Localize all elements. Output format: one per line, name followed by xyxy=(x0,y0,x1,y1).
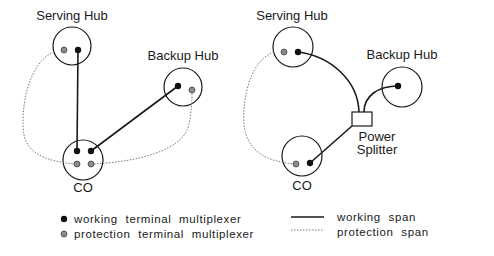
power-splitter-box xyxy=(352,112,372,126)
right-co-protection-tm xyxy=(293,161,299,167)
right-working-span-backup xyxy=(364,86,398,112)
left-backup-protection-tm xyxy=(189,87,195,93)
left-co-protection-tm-2 xyxy=(88,161,94,167)
right-co-working-tm xyxy=(307,160,313,166)
right-working-span-co xyxy=(310,126,352,163)
left-backup-working-tm xyxy=(175,83,181,89)
right-backup-working-tm xyxy=(395,83,401,89)
right-co-label: CO xyxy=(292,178,312,193)
right-serving-hub-label: Serving Hub xyxy=(256,8,328,23)
right-serving-working-tm xyxy=(295,49,301,55)
diagram-canvas: Serving Hub Backup Hub CO Serving Hub Ba… xyxy=(0,0,494,256)
left-serving-hub xyxy=(53,27,91,65)
legend-protection-tm-icon xyxy=(61,231,67,237)
left-co-protection-tm-1 xyxy=(74,161,80,167)
right-protection-span xyxy=(244,52,296,164)
left-working-span-serving xyxy=(77,50,78,151)
left-serving-hub-label: Serving Hub xyxy=(36,8,108,23)
right-diagram: Serving Hub Backup Hub Power Splitter CO xyxy=(244,8,438,193)
power-splitter-label-2: Splitter xyxy=(357,142,398,157)
left-serving-working-tm xyxy=(75,47,81,53)
legend-protection-tm-label: protection terminal multiplexer xyxy=(74,228,254,240)
left-diagram: Serving Hub Backup Hub CO xyxy=(23,8,218,195)
left-co-working-tm-1 xyxy=(74,148,80,154)
left-co-label: CO xyxy=(73,180,93,195)
right-backup-hub-label: Backup Hub xyxy=(367,47,438,62)
legend-working-tm-label: working terminal multiplexer xyxy=(73,213,241,225)
legend-working-span-label: working span xyxy=(336,211,416,223)
legend-working-tm-icon xyxy=(61,216,67,222)
legend-protection-span-label: protection span xyxy=(337,226,429,238)
left-working-span-backup xyxy=(91,86,178,151)
left-co-working-tm-2 xyxy=(88,148,94,154)
legend: working terminal multiplexer protection … xyxy=(61,211,429,240)
left-protection-span-backup xyxy=(91,91,192,164)
right-co xyxy=(282,136,322,176)
right-serving-hub xyxy=(273,27,313,67)
left-backup-hub-label: Backup Hub xyxy=(148,48,219,63)
left-backup-hub xyxy=(164,68,202,106)
left-serving-protection-tm xyxy=(61,47,67,53)
right-serving-protection-tm xyxy=(281,49,287,55)
